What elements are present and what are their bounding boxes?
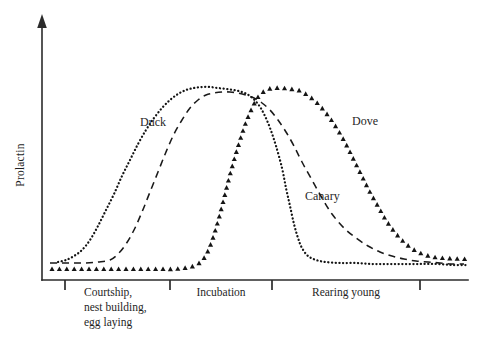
series-dove bbox=[49, 85, 467, 271]
data-marker bbox=[146, 266, 151, 271]
data-marker bbox=[94, 266, 99, 271]
data-marker bbox=[238, 135, 243, 140]
y-axis-label: Prolactin bbox=[14, 143, 26, 186]
data-marker bbox=[101, 266, 106, 271]
data-marker bbox=[390, 227, 395, 232]
data-marker bbox=[425, 253, 430, 258]
data-marker bbox=[329, 117, 334, 122]
series-canary bbox=[50, 92, 464, 264]
stage-label-rearing-young: Rearing young bbox=[312, 286, 380, 299]
data-marker bbox=[378, 208, 383, 213]
series-duck bbox=[58, 87, 466, 265]
data-marker bbox=[175, 266, 180, 271]
data-marker bbox=[344, 143, 349, 148]
data-marker bbox=[215, 221, 220, 226]
data-marker bbox=[234, 149, 239, 154]
data-marker bbox=[213, 228, 218, 233]
chart-canvas: Prolactin Courtship, nest building, egg … bbox=[0, 0, 477, 342]
data-marker bbox=[160, 266, 165, 271]
series-group bbox=[49, 85, 467, 271]
data-marker bbox=[303, 91, 308, 96]
data-marker bbox=[375, 202, 380, 207]
data-marker bbox=[267, 86, 272, 91]
data-marker bbox=[208, 242, 213, 247]
data-marker bbox=[395, 233, 400, 238]
stage-label-courtship-line3: egg laying bbox=[84, 316, 132, 329]
data-marker bbox=[333, 124, 338, 129]
data-marker bbox=[109, 266, 114, 271]
data-marker bbox=[230, 164, 235, 169]
y-axis: Prolactin bbox=[14, 14, 47, 280]
prolactin-breeding-stage-chart: Prolactin Courtship, nest building, egg … bbox=[0, 0, 477, 342]
data-marker bbox=[210, 235, 215, 240]
data-marker bbox=[297, 88, 302, 93]
data-marker bbox=[382, 215, 387, 220]
data-marker bbox=[320, 106, 325, 111]
data-marker bbox=[455, 256, 460, 261]
data-marker bbox=[275, 85, 280, 90]
data-marker bbox=[348, 149, 353, 154]
data-marker bbox=[351, 156, 356, 161]
series-label-canary: Canary bbox=[305, 189, 340, 203]
data-marker bbox=[371, 196, 376, 201]
series-label-dove: Dove bbox=[352, 114, 378, 128]
data-marker bbox=[138, 266, 143, 271]
data-marker bbox=[433, 255, 438, 260]
data-marker bbox=[226, 178, 231, 183]
data-marker bbox=[202, 255, 207, 260]
stage-label-courtship-line2: nest building, bbox=[84, 301, 147, 314]
data-marker bbox=[261, 89, 266, 94]
data-marker bbox=[217, 214, 222, 219]
data-marker bbox=[72, 266, 77, 271]
data-marker bbox=[196, 261, 201, 266]
data-marker bbox=[79, 266, 84, 271]
data-marker bbox=[361, 176, 366, 181]
data-marker bbox=[116, 266, 121, 271]
stage-labels: Courtship, nest building, egg laying Inc… bbox=[84, 286, 380, 329]
data-marker bbox=[243, 121, 248, 126]
data-marker bbox=[64, 266, 69, 271]
data-marker bbox=[205, 249, 210, 254]
data-marker bbox=[49, 266, 54, 271]
data-marker bbox=[245, 114, 250, 119]
data-marker bbox=[168, 267, 173, 272]
data-marker bbox=[354, 163, 359, 168]
series-annotations: Duck Dove Canary bbox=[140, 114, 378, 203]
data-marker bbox=[357, 169, 362, 174]
data-marker bbox=[183, 265, 188, 270]
data-marker bbox=[289, 87, 294, 92]
data-marker bbox=[440, 255, 445, 260]
data-marker bbox=[220, 199, 225, 204]
data-marker bbox=[367, 189, 372, 194]
data-marker bbox=[190, 264, 195, 269]
data-marker bbox=[447, 256, 452, 261]
data-marker bbox=[309, 96, 314, 101]
data-marker bbox=[341, 136, 346, 141]
data-marker bbox=[131, 266, 136, 271]
data-marker bbox=[406, 243, 411, 248]
data-marker bbox=[315, 100, 320, 105]
data-marker bbox=[337, 130, 342, 135]
data-marker bbox=[240, 128, 245, 133]
data-marker bbox=[153, 266, 158, 271]
data-marker bbox=[248, 108, 253, 113]
data-marker bbox=[123, 266, 128, 271]
data-marker bbox=[400, 238, 405, 243]
data-marker bbox=[255, 94, 260, 99]
data-marker bbox=[462, 256, 467, 261]
data-marker bbox=[57, 266, 62, 271]
data-marker bbox=[418, 251, 423, 256]
data-marker bbox=[236, 142, 241, 147]
series-label-duck: Duck bbox=[140, 115, 166, 129]
data-marker bbox=[364, 183, 369, 188]
data-marker bbox=[232, 156, 237, 161]
data-marker bbox=[282, 86, 287, 91]
data-marker bbox=[386, 221, 391, 226]
data-marker bbox=[228, 171, 233, 176]
y-axis-arrow-icon bbox=[37, 14, 47, 28]
data-marker bbox=[219, 207, 224, 212]
data-marker bbox=[224, 185, 229, 190]
data-marker bbox=[86, 266, 91, 271]
data-marker bbox=[325, 112, 330, 117]
data-marker bbox=[412, 247, 417, 252]
